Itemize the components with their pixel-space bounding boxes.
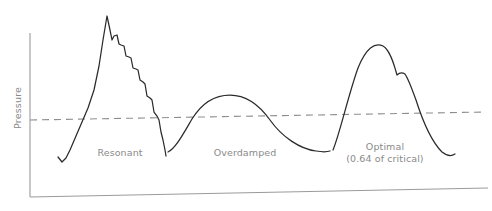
waveform-resonant	[58, 16, 166, 162]
y-axis-label: Pressure	[12, 87, 23, 129]
series-sublabel-optimal: (0.64 of critical)	[346, 153, 423, 164]
series-label-overdamped: Overdamped	[214, 147, 277, 158]
chart-svg: Pressure Resonant Overdamped Optimal (0.…	[0, 0, 492, 211]
series-label-optimal: Optimal	[366, 141, 404, 152]
pressure-waveform-chart: Pressure Resonant Overdamped Optimal (0.…	[0, 0, 492, 211]
mean-pressure-reference-line	[30, 112, 486, 120]
waveform-overdamped	[168, 95, 330, 152]
waveform-optimal	[333, 45, 455, 155]
x-axis-line	[30, 188, 488, 197]
series-label-resonant: Resonant	[97, 147, 142, 158]
